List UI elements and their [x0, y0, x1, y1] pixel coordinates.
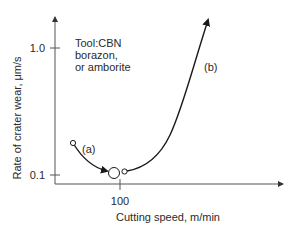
crater-wear-diagram: 1.0 0.1 100 Rate of crater wear, μm/s Cu…	[0, 0, 296, 238]
curve-a-start-point	[70, 140, 75, 145]
curve-b	[127, 20, 208, 171]
minimum-point	[109, 168, 120, 179]
tool-note-line-2: borazon,	[75, 49, 118, 61]
ytick-label-0-1: 0.1	[30, 169, 45, 181]
x-axis-label: Cutting speed, m/min	[116, 211, 220, 223]
y-axis-label: Rate of crater wear, μm/s	[11, 56, 23, 180]
xtick-label-100: 100	[111, 195, 129, 207]
curve-a-label: (a)	[82, 143, 95, 155]
curve-b-label: (b)	[204, 61, 217, 73]
ytick-label-1-0: 1.0	[30, 42, 45, 54]
tool-note-line-1: Tool:CBN	[75, 37, 122, 49]
tool-note-line-3: or amborite	[75, 61, 131, 73]
curve-b-start-point	[122, 169, 127, 174]
